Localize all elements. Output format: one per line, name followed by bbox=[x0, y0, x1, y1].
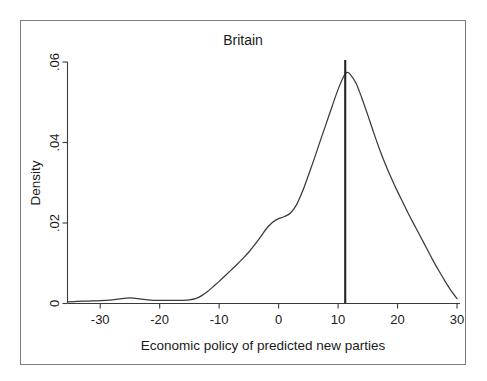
figure-border bbox=[20, 20, 466, 365]
figure-container: Britain 0.02.04.06 -30-20-100102030 Dens… bbox=[0, 0, 487, 381]
